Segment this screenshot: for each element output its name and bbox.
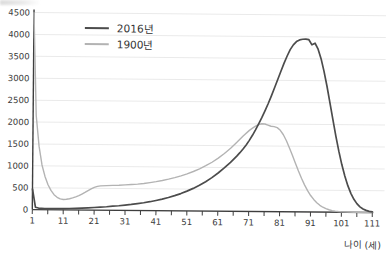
x-tick-label: 21 <box>89 216 100 226</box>
age-distribution-line-chart: 0500100015002000250030003500400045001112… <box>0 0 390 261</box>
x-tick-label: 81 <box>274 218 285 228</box>
legend-line-swatch <box>85 43 109 45</box>
y-tick-label: 3500 <box>8 51 30 61</box>
x-tick-label: 1 <box>29 216 35 226</box>
x-tick-label: 101 <box>333 218 349 228</box>
x-tick-label: 71 <box>243 217 254 227</box>
gridline <box>34 13 386 16</box>
x-tick-label: 91 <box>305 218 316 228</box>
gridline <box>33 166 385 169</box>
x-tick-label: 61 <box>212 217 223 227</box>
y-tick-label: 1500 <box>7 139 29 149</box>
x-axis-title: 나이 (세) <box>344 237 382 251</box>
y-tick-label: 4500 <box>8 7 30 17</box>
y-tick-label: 3000 <box>8 73 30 83</box>
y-tick-label: 1000 <box>7 161 29 171</box>
chart-legend: 2016년1900년 <box>85 23 154 50</box>
x-tick-label: 51 <box>181 217 192 227</box>
y-tick-label: 4000 <box>8 29 30 39</box>
y-tick-label: 0 <box>23 205 29 215</box>
x-tick-label: 31 <box>119 216 130 226</box>
y-tick-label: 2500 <box>8 95 30 105</box>
x-axis-line <box>32 210 373 213</box>
gridline <box>33 100 385 103</box>
legend-line-swatch <box>85 27 109 29</box>
y-tick-label: 500 <box>12 183 28 193</box>
gridline <box>32 188 384 191</box>
legend-label: 1900년 <box>117 39 154 50</box>
legend-label: 2016년 <box>117 23 154 34</box>
legend-item-1: 1900년 <box>85 39 154 50</box>
gridline <box>33 78 385 81</box>
chart-canvas: 0500100015002000250030003500400045001112… <box>0 0 390 261</box>
y-axis-line <box>32 10 34 210</box>
x-tick-label: 111 <box>364 218 380 228</box>
gridline <box>33 122 385 125</box>
chart-page: 0500100015002000250030003500400045001112… <box>0 0 390 261</box>
legend-item-0: 2016년 <box>85 23 154 34</box>
gridline <box>34 56 386 59</box>
x-tick-label: 11 <box>58 216 69 226</box>
y-tick-label: 2000 <box>7 117 29 127</box>
gridline <box>33 144 385 147</box>
x-tick-label: 41 <box>150 217 161 227</box>
